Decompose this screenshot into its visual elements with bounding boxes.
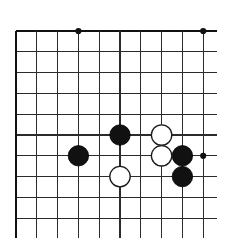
white-stone-disc[interactable]	[110, 166, 130, 186]
white-stone[interactable]	[110, 166, 130, 186]
white-stone[interactable]	[151, 146, 171, 166]
white-stone-disc[interactable]	[151, 125, 171, 145]
white-stone[interactable]	[151, 125, 171, 145]
black-stone-disc[interactable]	[172, 166, 192, 186]
black-stone-disc[interactable]	[172, 146, 192, 166]
white-stone-disc[interactable]	[151, 146, 171, 166]
star-point	[200, 153, 206, 159]
black-stone-disc[interactable]	[68, 146, 88, 166]
go-board-diagram	[0, 0, 228, 238]
black-stone[interactable]	[172, 166, 192, 186]
go-board-canvas[interactable]	[0, 0, 228, 238]
black-stone-disc[interactable]	[110, 125, 130, 145]
black-stone[interactable]	[110, 125, 130, 145]
star-point	[200, 28, 206, 34]
black-stone[interactable]	[172, 146, 192, 166]
star-point	[75, 28, 81, 34]
black-stone[interactable]	[68, 146, 88, 166]
